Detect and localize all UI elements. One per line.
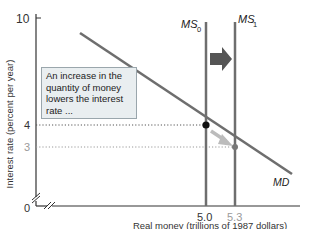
svg-text:MS: MS <box>181 18 198 30</box>
y-axis-title: Interest rate (percent per year) <box>4 60 15 189</box>
svg-text:0: 0 <box>197 25 201 34</box>
equilibrium-point-new <box>232 144 238 150</box>
annotation-note: An increase in the quantity of money low… <box>41 67 137 119</box>
svg-text:1: 1 <box>253 20 257 29</box>
shift-arrow-icon <box>210 47 232 71</box>
ms1-label: MS 1 <box>238 13 257 29</box>
y-tick-label-4: 4 <box>24 119 30 131</box>
ms0-label: MS 0 <box>181 18 201 34</box>
md-label: MD <box>273 176 290 188</box>
x-axis-title: Real money (trillions of 1987 dollars) <box>133 220 287 229</box>
origin-label: 0 <box>24 202 30 214</box>
y-tick-label-10: 10 <box>16 12 30 26</box>
y-tick-label-3: 3 <box>24 141 30 153</box>
equilibrium-point-initial <box>202 121 209 128</box>
